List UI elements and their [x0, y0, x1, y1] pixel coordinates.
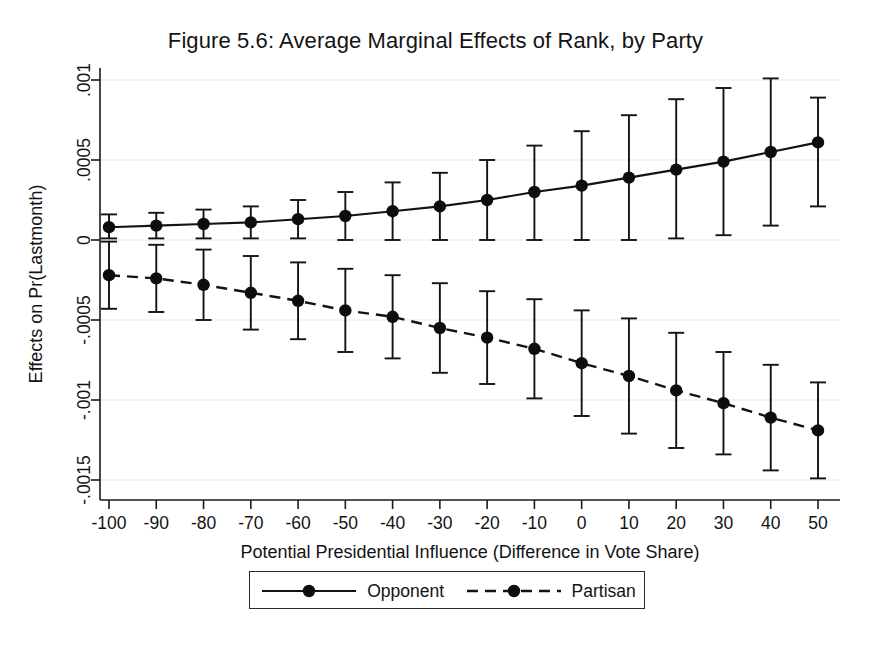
data-point-marker [150, 272, 162, 284]
legend: OpponentPartisan [249, 571, 645, 609]
data-point-marker [103, 269, 115, 281]
data-point-marker [245, 287, 257, 299]
data-point-marker [670, 163, 682, 175]
legend-label: Opponent [367, 581, 444, 602]
y-tick-label: .0005 [74, 138, 94, 182]
data-point-marker [245, 216, 257, 228]
chart-plot-area: .001.00050-.0005-.001-.0015 -100-90-80-7… [0, 0, 871, 650]
y-axis-title: Effects on Pr(Lastmonth) [26, 185, 46, 384]
legend-items: OpponentPartisan [250, 572, 646, 610]
data-point-marker [292, 295, 304, 307]
data-point-marker [528, 343, 540, 355]
axis-titles: Potential Presidential Influence (Differ… [26, 185, 699, 562]
data-point-marker [339, 210, 351, 222]
data-series [101, 78, 826, 478]
x-tick-label: 50 [808, 513, 828, 533]
x-tick-label: -60 [285, 513, 311, 533]
x-tick-label: 10 [619, 513, 639, 533]
data-point-marker [197, 218, 209, 230]
data-point-marker [670, 384, 682, 396]
y-tick-label: -.0015 [74, 455, 94, 505]
data-point-marker [434, 322, 446, 334]
legend-item-opponent[interactable]: Opponent [260, 581, 444, 602]
data-point-marker [575, 357, 587, 369]
axes [100, 68, 840, 500]
legend-swatch-dashed [465, 581, 563, 601]
grid-lines [100, 80, 840, 480]
x-tick-label: -20 [474, 513, 500, 533]
x-tick-label: -90 [144, 513, 170, 533]
y-axis-ticks: .001.00050-.0005-.001-.0015 [74, 63, 100, 505]
x-tick-label: -80 [191, 513, 217, 533]
data-point-marker [150, 219, 162, 231]
x-tick-label: -30 [427, 513, 453, 533]
data-point-marker [386, 311, 398, 323]
x-tick-label: -10 [522, 513, 548, 533]
data-point-marker [623, 171, 635, 183]
data-point-marker [812, 424, 824, 436]
data-point-marker [765, 146, 777, 158]
data-point-marker [481, 331, 493, 343]
x-tick-label: 0 [577, 513, 587, 533]
series-opponent [101, 78, 826, 240]
x-tick-label: 20 [666, 513, 686, 533]
data-point-marker [717, 155, 729, 167]
legend-swatch-solid [260, 581, 358, 601]
x-tick-label: -50 [333, 513, 359, 533]
x-tick-label: -70 [238, 513, 264, 533]
legend-item-partisan[interactable]: Partisan [465, 581, 636, 602]
data-point-marker [765, 411, 777, 423]
y-tick-label: -.001 [74, 380, 94, 420]
data-point-marker [197, 279, 209, 291]
data-point-marker [386, 205, 398, 217]
data-point-marker [812, 136, 824, 148]
data-point-marker [339, 304, 351, 316]
series-line [109, 142, 818, 227]
series-line [109, 275, 818, 430]
x-axis-ticks: -100-90-80-70-60-50-40-30-20-10010203040… [91, 500, 828, 533]
series-partisan [101, 242, 826, 479]
x-tick-label: -40 [380, 513, 406, 533]
x-tick-label: -100 [91, 513, 126, 533]
data-point-marker [623, 370, 635, 382]
data-point-marker [103, 221, 115, 233]
data-point-marker [717, 397, 729, 409]
error-bar [810, 98, 826, 207]
data-point-marker [528, 186, 540, 198]
y-tick-label: 0 [74, 235, 94, 245]
data-point-marker [575, 179, 587, 191]
y-tick-label: -.0005 [74, 295, 94, 345]
x-tick-label: 30 [714, 513, 734, 533]
figure-container: Figure 5.6: Average Marginal Effects of … [0, 0, 871, 650]
data-point-marker [434, 200, 446, 212]
legend-label: Partisan [572, 581, 636, 602]
x-tick-label: 40 [761, 513, 781, 533]
data-point-marker [481, 194, 493, 206]
y-tick-label: .001 [74, 63, 94, 97]
x-axis-title: Potential Presidential Influence (Differ… [241, 542, 700, 562]
data-point-marker [292, 213, 304, 225]
